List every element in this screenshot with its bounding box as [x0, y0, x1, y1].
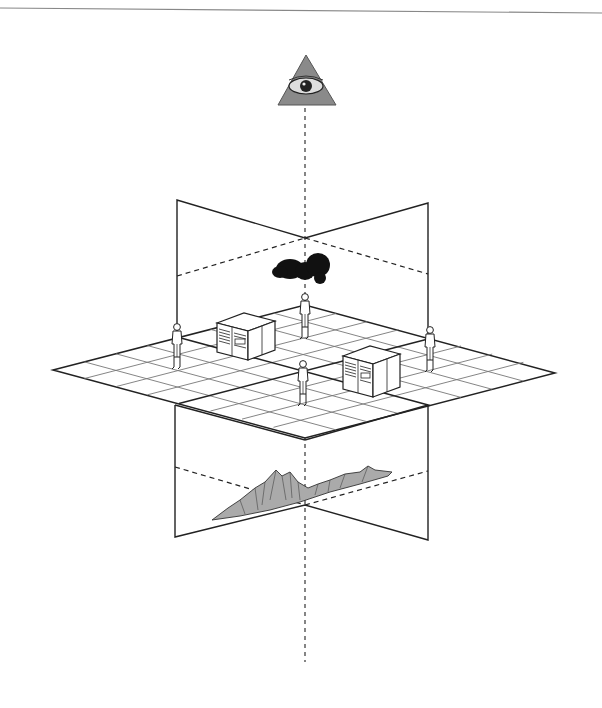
- cloud-icon: [272, 253, 330, 284]
- isometric-diagram: [0, 0, 602, 708]
- server-cabinet-icon: [343, 346, 400, 397]
- server-cabinet-icon: [217, 313, 275, 360]
- mountain-range-icon: [212, 466, 392, 520]
- top-border-line: [0, 8, 602, 13]
- eye-pyramid-icon: [278, 55, 336, 105]
